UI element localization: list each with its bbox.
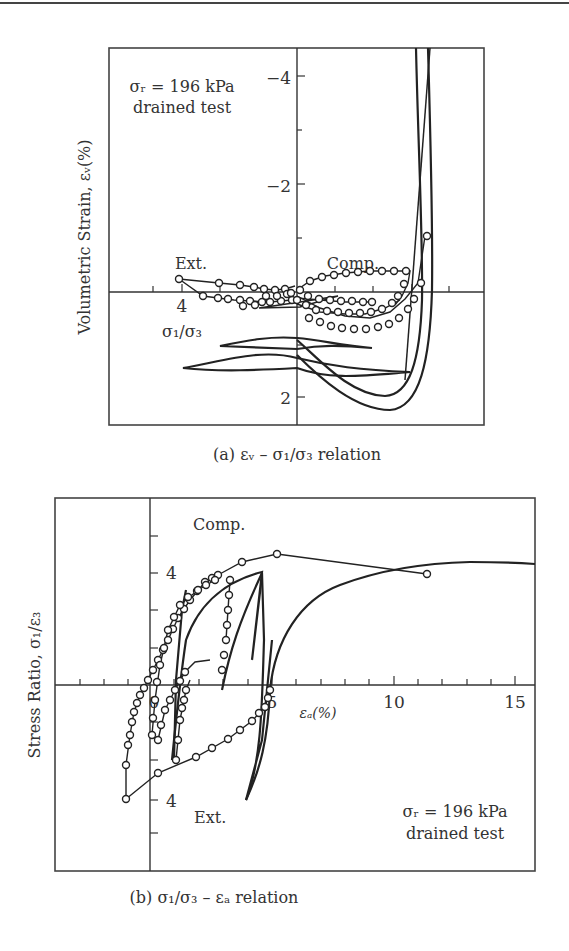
- panel-a-x-label: σ₁/σ₃: [162, 322, 202, 341]
- panel-b-caption: (b) σ₁/σ₃ – εₐ relation: [130, 888, 299, 907]
- panel-a-y-label: Volumetric Strain, εᵥ(%): [75, 139, 94, 335]
- panel-a-annotation-pressure: σᵣ = 196 kPa: [130, 77, 235, 96]
- panel-a-xtick-4: 4: [177, 296, 188, 316]
- panel-b-ytick-4-upper: 4: [166, 563, 177, 583]
- panel-b-x-label: εₐ(%): [300, 705, 337, 721]
- panel-a-circle-series: [176, 233, 431, 333]
- panel-b-annotation-pressure: σᵣ = 196 kPa: [403, 802, 508, 821]
- panel-b-ext-label: Ext.: [194, 808, 226, 827]
- panel-b-annotation-test: drained test: [406, 824, 505, 843]
- panel-a-ytick-neg2: −2: [266, 176, 291, 196]
- panel-b-xtick-10: 10: [383, 692, 405, 712]
- panel-b-circle-markers: [123, 551, 431, 803]
- panel-a-ytick-neg4: −4: [266, 68, 291, 88]
- panel-a-ytick-2: 2: [280, 388, 291, 408]
- figure-canvas: −4 −2 2 4 σ₁/σ₃ Ext. Comp. σᵣ = 196 kPa …: [0, 0, 569, 951]
- panel-a-annotation-test: drained test: [133, 98, 232, 117]
- panel-b-circle-lines: [126, 554, 427, 799]
- panel-b-ytick-4-lower: 4: [166, 791, 177, 811]
- panel-a-ext-label: Ext.: [175, 254, 207, 273]
- panel-b-comp-label: Comp.: [193, 515, 245, 534]
- panel-a-caption: (a) εᵥ – σ₁/σ₃ relation: [213, 445, 381, 464]
- panel-b: 4 4 0 5 10 15 εₐ(%) Comp. Ext. σᵣ = 196 …: [25, 498, 535, 907]
- panel-b-y-label: Stress Ratio, σ₁/ε₃: [25, 612, 44, 759]
- panel-b-xtick-15: 15: [504, 692, 526, 712]
- panel-a: −4 −2 2 4 σ₁/σ₃ Ext. Comp. σᵣ = 196 kPa …: [75, 48, 484, 464]
